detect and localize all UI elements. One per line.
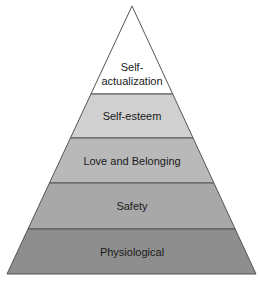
pyramid-label-love-and-belonging: Love and Belonging xyxy=(83,155,180,167)
pyramid-level-self-esteem: Self-esteem xyxy=(70,94,193,138)
pyramid-level-love-and-belonging: Love and Belonging xyxy=(49,138,213,183)
pyramid-label-safety: Safety xyxy=(116,200,148,212)
pyramid-level-physiological: Physiological xyxy=(7,229,256,274)
pyramid-label-self-actualization: actualization xyxy=(101,75,162,87)
pyramid-label-self-esteem: Self-esteem xyxy=(103,110,162,122)
pyramid-level-self-actualization: Self-actualization xyxy=(91,6,173,94)
pyramid-label-physiological: Physiological xyxy=(100,246,164,258)
pyramid-label-self-actualization: Self- xyxy=(121,61,144,73)
pyramid-diagram: Self-actualizationSelf-esteemLove and Be… xyxy=(0,0,258,281)
pyramid-level-safety: Safety xyxy=(28,183,235,229)
